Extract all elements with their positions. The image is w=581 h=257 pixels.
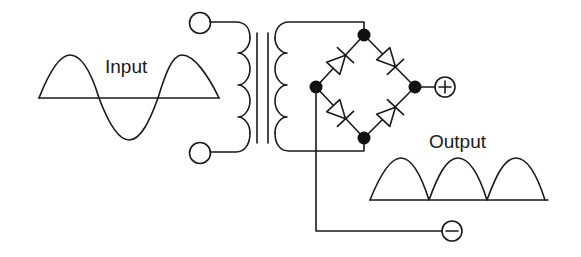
positive-terminal (435, 77, 455, 97)
negative-terminal (442, 221, 462, 241)
output-rectified-curve (370, 158, 545, 200)
input-label: Input (105, 56, 148, 77)
primary-coil (210, 22, 250, 152)
rectifier-diagram: Input (0, 0, 581, 257)
bridge-wires (316, 35, 415, 138)
bridge-node-top (358, 29, 371, 42)
input-waveform: Input (39, 55, 219, 140)
input-terminal-top (190, 13, 211, 34)
bridge-node-bottom (358, 132, 371, 145)
input-terminal-bottom (190, 143, 211, 164)
output-waveform: Output (370, 131, 548, 200)
output-label: Output (429, 131, 487, 152)
